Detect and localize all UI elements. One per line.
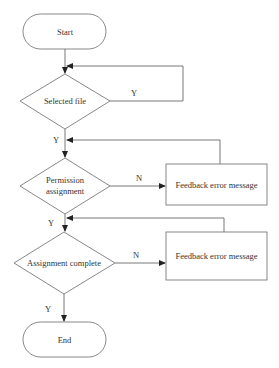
permission-label-line1: Permission [46,175,85,185]
feedback2-label: Feedback error message [175,251,257,261]
end-label: End [58,335,72,345]
feedback-error-box-2: Feedback error message [166,232,267,280]
edge-label-permission-to-complete: Y [48,218,54,228]
assignment-complete-decision: Assignment complete [14,232,115,294]
start-label: Start [57,27,74,37]
edge-label-selected-to-permission: Y [53,135,59,145]
arrow-feedback2-loop [67,218,224,232]
permission-label-line2: assignment [46,186,85,196]
assignment-complete-label: Assignment complete [27,258,101,268]
edge-label-complete-to-feedback: N [133,250,139,260]
permission-assignment-decision: Permission assignment [20,158,110,214]
selected-file-decision: Selected file [20,74,110,129]
feedback-error-box-1: Feedback error message [166,164,267,205]
arrow-feedback1-loop [67,140,220,164]
edge-label-selected-loop: Y [131,88,137,98]
flowchart-canvas: Start Y Selected file Y Permission assig… [0,0,279,368]
start-node: Start [23,14,106,49]
selected-file-label: Selected file [44,96,86,106]
end-node: End [23,322,106,357]
feedback1-label: Feedback error message [175,180,257,190]
edge-label-complete-to-end: Y [45,304,51,314]
edge-label-permission-to-feedback: N [136,173,142,183]
